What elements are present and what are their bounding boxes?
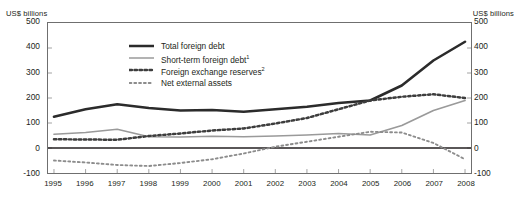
legend-swatch-solid-thin <box>129 53 154 63</box>
y-tick-left-neg100: -100 <box>0 168 40 178</box>
legend-total-foreign-debt: Total foreign debt <box>129 41 265 51</box>
chart-legend: Total foreign debtShort-term foreign deb… <box>129 41 265 88</box>
y-tick-right-300: 300 <box>474 67 514 77</box>
legend-label: Total foreign debt <box>161 41 225 51</box>
y-tick-left-400: 400 <box>0 41 40 51</box>
legend-footnote-marker: 1 <box>246 54 249 60</box>
series-line-foreign-exchange-reserves <box>54 94 465 140</box>
legend-footnote-marker: 2 <box>262 66 265 72</box>
y-tick-right-500: 500 <box>474 16 514 26</box>
y-tick-left-100: 100 <box>0 117 40 127</box>
y-tick-right-100: 100 <box>474 117 514 127</box>
legend-swatch-dotted-fine <box>129 78 154 88</box>
y-tick-right-0: 0 <box>474 143 514 153</box>
y-tick-left-0: 0 <box>0 143 40 153</box>
y-tick-right-200: 200 <box>474 92 514 102</box>
legend-net-external-assets: Net external assets <box>129 78 265 88</box>
legend-swatch-solid-thick <box>129 41 154 51</box>
y-tick-right-400: 400 <box>474 41 514 51</box>
chart-root: US$ billions US$ billions 50050040040030… <box>0 0 519 203</box>
legend-label: Foreign exchange reserves2 <box>161 64 265 77</box>
x-tick-2008: 2008 <box>446 179 486 188</box>
legend-label: Short-term foreign debt1 <box>161 52 249 65</box>
y-tick-left-200: 200 <box>0 92 40 102</box>
legend-swatch-dotted-bold <box>129 65 154 75</box>
y-tick-left-500: 500 <box>0 16 40 26</box>
legend-label: Net external assets <box>161 78 232 88</box>
series-line-short-term-foreign-debt <box>54 100 465 137</box>
legend-short-term-foreign-debt: Short-term foreign debt1 <box>129 53 265 63</box>
y-tick-left-300: 300 <box>0 67 40 77</box>
legend-foreign-exchange-reserves: Foreign exchange reserves2 <box>129 65 265 75</box>
y-tick-right-neg100: -100 <box>474 168 514 178</box>
